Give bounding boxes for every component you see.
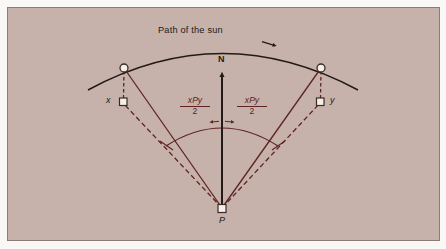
sun-path-diagram [0,0,446,249]
sun-path-label: Path of the sun [158,26,223,35]
observer-marker-p [218,205,226,213]
north-label: N [218,55,225,64]
angle-arc-arrow-left [211,121,219,122]
angle-label-right: xPy 2 [237,96,267,116]
point-marker-x [120,98,128,106]
angle-arc-tick-right [272,141,285,150]
sun-marker-right [317,64,325,72]
figure-root: Path of the sun N x y P xPy 2 xPy 2 [0,0,446,249]
angle-label-left-denominator: 2 [180,107,210,116]
observer-label: P [219,216,225,225]
angle-label-right-numerator: xPy [237,96,267,105]
point-y-label: y [330,96,335,105]
angle-arc-arrow-right [225,121,233,122]
ray-to-sun-right [222,68,321,208]
drop-line-left [124,71,125,98]
point-x-label: x [106,96,111,105]
angle-label-left: xPy 2 [180,96,210,116]
sun-direction-arrow [262,42,275,46]
point-marker-y [317,98,325,106]
angle-label-right-denominator: 2 [237,107,267,116]
ray-to-point-y [222,103,320,208]
angle-label-left-numerator: xPy [180,96,210,105]
drop-line-right [321,71,322,98]
ray-to-point-x [123,103,222,208]
sun-marker-left [120,64,128,72]
ray-to-sun-left [124,68,222,208]
